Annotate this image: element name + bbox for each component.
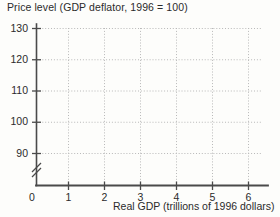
- y-tick-label: 110: [2, 84, 28, 96]
- y-tick-label: 130: [2, 22, 28, 34]
- x-tick-label: 1: [62, 191, 76, 203]
- vertical-gridlines: [69, 28, 249, 186]
- x-axis-caption: Real GDP (trillions of 1996 dollars): [113, 200, 274, 212]
- horizontal-gridlines: [37, 29, 263, 154]
- x-tick-label: 2: [98, 191, 112, 203]
- y-tick-label: 90: [2, 147, 28, 159]
- y-tick-label: 100: [2, 115, 28, 127]
- plot-area: [0, 0, 280, 217]
- origin-label: 0: [29, 191, 35, 203]
- y-tick-label: 120: [2, 53, 28, 65]
- chart-container: Price level (GDP deflator, 1996 = 100) 1…: [0, 0, 280, 217]
